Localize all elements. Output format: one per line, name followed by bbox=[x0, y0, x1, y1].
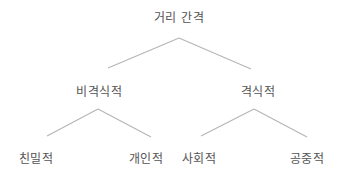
root-node-distance: 거리 간격 bbox=[154, 8, 204, 25]
edge-formal-public bbox=[254, 109, 307, 137]
edge-root-formal bbox=[179, 38, 251, 69]
edge-root-informal bbox=[108, 38, 179, 68]
edge-formal-social bbox=[201, 109, 254, 136]
node-personal: 개인적 bbox=[129, 149, 164, 166]
node-social: 사회적 bbox=[182, 149, 217, 166]
node-public: 공중적 bbox=[290, 149, 325, 166]
distance-tree-diagram: 거리 간격 비격식적 격식적 친밀적 개인적 사회적 공중적 bbox=[0, 0, 348, 176]
edge-informal-intimate bbox=[47, 109, 98, 136]
node-formal: 격식적 bbox=[241, 82, 276, 99]
node-intimate: 친밀적 bbox=[19, 149, 54, 166]
node-informal: 비격식적 bbox=[76, 82, 122, 99]
edge-informal-personal bbox=[98, 109, 151, 137]
